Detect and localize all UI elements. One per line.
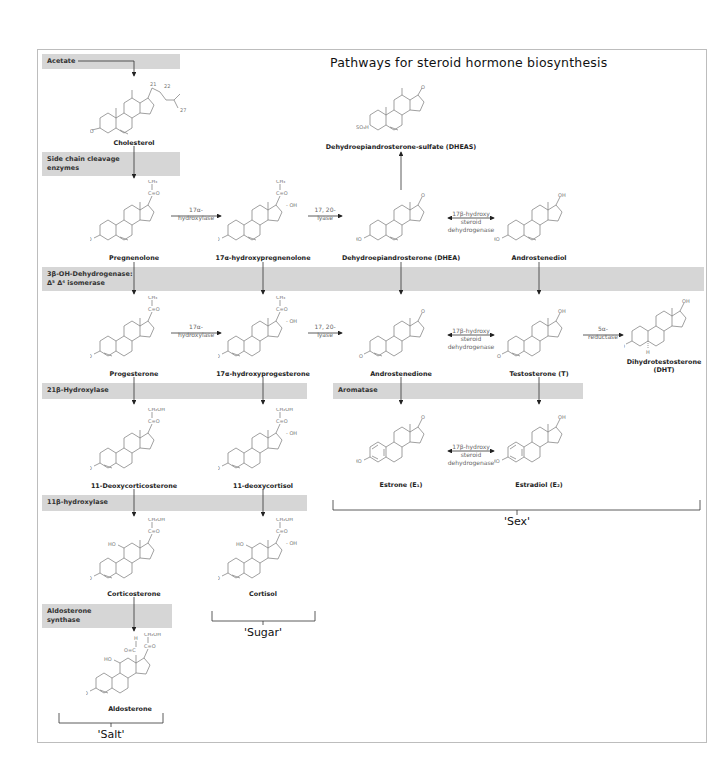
svg-text:CH₂OH: CH₂OH	[276, 518, 293, 522]
label-17oh-progesterone: 17α-hydroxyprogesterone	[216, 370, 310, 378]
svg-text:CH₂OH: CH₂OH	[276, 408, 293, 412]
label-estradiol: Estradiol (E₂)	[515, 481, 562, 489]
aldosterone-structure: OHOHO=CCH₂OHC=O	[86, 633, 176, 705]
svg-text:O: O	[421, 192, 425, 198]
svg-text:C=O: C=O	[148, 306, 160, 312]
svg-text:O: O	[218, 353, 220, 359]
svg-text:C=O: C=O	[276, 306, 288, 312]
deoxycortisol-structure: OCH₂OHC=O- OH	[218, 408, 308, 480]
svg-text:OH: OH	[558, 414, 566, 420]
enzyme-text: 17, 20-	[314, 206, 335, 213]
svg-text:C=O: C=O	[148, 528, 160, 534]
svg-text:SO₃H: SO₃H	[356, 124, 369, 130]
oh-pregnenolone-structure: HOCH₃C=O- OH	[218, 180, 308, 252]
enzyme-text: dehydrogenase	[448, 343, 494, 350]
enzyme-text: hydroxylase	[178, 214, 214, 221]
label-17oh-pregnenolone: 17α-hydroxypregnenolone	[216, 254, 311, 262]
svg-text:OH: OH	[558, 308, 566, 314]
svg-text:CH₃: CH₃	[148, 180, 157, 184]
label-corticosterone: Corticosterone	[107, 590, 160, 598]
androstenediol-structure: HOOH	[494, 190, 584, 252]
dht-structure: OOHH	[624, 296, 708, 358]
enzyme-17a-hydroxylase-row2: 17α-hydroxylase	[178, 323, 214, 339]
svg-text:HO: HO	[494, 458, 500, 464]
svg-text:H: H	[134, 635, 138, 641]
svg-text:C=O: C=O	[144, 643, 156, 649]
label-cholesterol: Cholesterol	[113, 139, 154, 147]
enzyme-text: steroid	[461, 218, 482, 225]
enzyme-text: dehydrogenase	[448, 226, 494, 233]
svg-text:O: O	[497, 353, 501, 359]
label-testosterone: Testosterone (T)	[509, 370, 568, 378]
svg-text:27: 27	[180, 107, 186, 113]
enzyme-text: 5α-	[598, 325, 608, 332]
svg-text:CH₂OH: CH₂OH	[148, 408, 165, 412]
svg-text:O: O	[421, 308, 425, 314]
svg-text:O=C: O=C	[124, 647, 136, 653]
oh-progesterone-structure: OCH₃C=O- OH	[218, 296, 308, 368]
enzyme-text: steroid	[461, 451, 482, 458]
enzyme-text: 17β-hydroxy	[452, 327, 490, 334]
enzyme-text: 17β-hydroxy	[452, 210, 490, 217]
svg-text:HO: HO	[104, 656, 112, 662]
label-dht: Dihydrotestosterone(DHT)	[627, 358, 702, 374]
enzyme-text: 17β-hydroxy	[452, 443, 490, 450]
svg-text:HO: HO	[90, 236, 92, 242]
svg-text:O: O	[624, 343, 625, 349]
estradiol-structure: HOOH	[494, 412, 584, 474]
enzyme-17b-hsd-row1: 17β-hydroxysteroiddehydrogenase	[448, 210, 494, 234]
androstenedione-structure: OO	[356, 306, 446, 368]
label-deoxycortisol: 11-deoxycortisol	[233, 482, 293, 490]
svg-text:C=O: C=O	[276, 190, 288, 196]
cholesterol-structure: HO 212227	[90, 78, 200, 146]
svg-text:CH₂OH: CH₂OH	[144, 633, 161, 637]
enzyme-text: 17, 20-	[314, 323, 335, 330]
svg-text:HO: HO	[236, 541, 244, 547]
label-dht-line2: (DHT)	[654, 366, 675, 374]
label-progesterone: Progesterone	[110, 370, 159, 378]
corticosterone-structure: OHOCH₂OHC=O	[90, 518, 170, 590]
svg-text:C=O: C=O	[148, 190, 160, 196]
svg-text:O: O	[86, 690, 88, 696]
svg-text:- OH: - OH	[286, 430, 297, 436]
enzyme-1720-lyase-row1: 17, 20-lyase	[314, 206, 335, 222]
svg-text:H: H	[646, 349, 650, 355]
svg-text:OH: OH	[558, 192, 566, 198]
svg-text:CH₂OH: CH₂OH	[148, 518, 165, 522]
progesterone-structure: OCH₃C=O	[90, 296, 170, 368]
dheas-structure: SO₃HO	[356, 85, 446, 140]
svg-text:O: O	[90, 465, 92, 471]
svg-text:OH: OH	[682, 298, 690, 304]
enzyme-text: 17α-	[189, 206, 203, 213]
svg-text:HO: HO	[356, 458, 362, 464]
enzyme-17b-hsd-row2: 17β-hydroxysteroiddehydrogenase	[448, 327, 494, 351]
svg-text:HO: HO	[108, 541, 116, 547]
label-aldosterone: Aldosterone	[108, 705, 152, 713]
svg-text:O: O	[218, 575, 220, 581]
svg-text:- OH: - OH	[286, 202, 297, 208]
enzyme-text: dehydrogenase	[448, 459, 494, 466]
svg-text:HO: HO	[90, 128, 94, 134]
svg-text:HO: HO	[218, 236, 220, 242]
svg-text:- OH: - OH	[286, 318, 297, 324]
svg-text:HO: HO	[494, 236, 500, 242]
label-pregnenolone: Pregnenolone	[109, 254, 159, 262]
enzyme-5a-reductase: 5α-reductase	[588, 325, 618, 341]
svg-text:CH₃: CH₃	[276, 296, 285, 300]
label-dheas: Dehydroepiandrosterone-sulfate (DHEAS)	[326, 143, 476, 151]
enzyme-1720-lyase-row2: 17, 20-lyase	[314, 323, 335, 339]
label-estrone: Estrone (E₁)	[380, 481, 423, 489]
label-dht-line1: Dihydrotestosterone	[627, 358, 702, 366]
svg-text:CH₃: CH₃	[276, 180, 285, 184]
svg-text:O: O	[90, 353, 92, 359]
group-sugar: 'Sugar'	[244, 626, 282, 639]
label-cortisol: Cortisol	[249, 590, 277, 598]
svg-text:CH₃: CH₃	[148, 296, 157, 300]
enzyme-text: steroid	[461, 335, 482, 342]
svg-text:O: O	[359, 353, 363, 359]
enzyme-text: lyase	[317, 214, 333, 221]
svg-text:O: O	[90, 575, 92, 581]
svg-text:O: O	[421, 85, 425, 90]
svg-text:- OH: - OH	[286, 540, 297, 546]
enzyme-text: 17α-	[189, 323, 203, 330]
